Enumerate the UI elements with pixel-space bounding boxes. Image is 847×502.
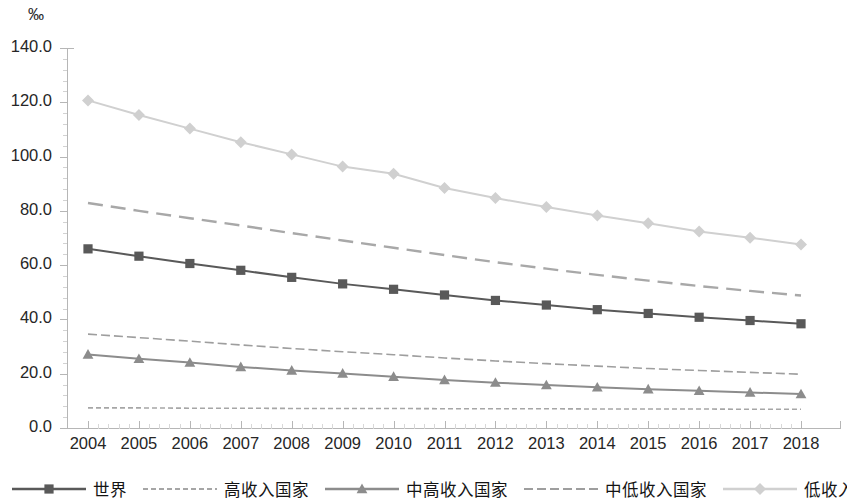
data-point-marker bbox=[542, 300, 551, 309]
data-point-marker bbox=[489, 192, 501, 204]
series-6 bbox=[88, 203, 801, 296]
data-point-marker bbox=[642, 217, 654, 229]
data-point-marker bbox=[593, 305, 602, 314]
legend-swatch-icon bbox=[723, 481, 797, 497]
legend-label: 中高收入国家 bbox=[406, 477, 508, 501]
data-point-marker bbox=[287, 273, 296, 282]
legend-label: 中低收入国家 bbox=[605, 477, 707, 501]
series-3 bbox=[83, 349, 807, 398]
data-point-marker bbox=[491, 296, 500, 305]
data-point-marker bbox=[286, 148, 298, 160]
series-1 bbox=[83, 244, 805, 328]
data-point-marker bbox=[591, 209, 603, 221]
data-point-marker bbox=[439, 182, 451, 194]
data-point-marker bbox=[795, 239, 807, 251]
legend-item-4[interactable]: 中低收入国家 bbox=[524, 477, 707, 501]
series-4 bbox=[88, 334, 801, 374]
legend-item-3[interactable]: 中高收入国家 bbox=[325, 477, 508, 501]
data-point-marker bbox=[185, 259, 194, 268]
data-point-marker bbox=[133, 109, 145, 121]
data-point-marker bbox=[388, 168, 400, 180]
data-point-marker bbox=[644, 309, 653, 318]
legend-label: 高收入国家 bbox=[224, 477, 309, 501]
series-line bbox=[88, 203, 801, 296]
legend-swatch-icon bbox=[524, 481, 598, 497]
chart-container: ‰ 140.0120.0100.080.060.040.020.00.0 200… bbox=[0, 0, 847, 502]
plot-series-layer bbox=[0, 0, 847, 502]
data-point-marker bbox=[236, 266, 245, 275]
data-point-marker bbox=[744, 232, 756, 244]
data-point-marker bbox=[337, 161, 349, 173]
chart-legend: 世界高收入国家中高收入国家中低收入国家低收入国家新兴市场30国 bbox=[0, 476, 847, 502]
data-point-marker bbox=[338, 279, 347, 288]
legend-swatch-icon bbox=[12, 481, 86, 497]
legend-item-2[interactable]: 高收入国家 bbox=[143, 477, 309, 501]
legend-swatch-icon bbox=[325, 481, 399, 497]
data-point-marker bbox=[389, 285, 398, 294]
series-line bbox=[88, 334, 801, 374]
legend-swatch-icon bbox=[143, 481, 217, 497]
data-point-marker bbox=[235, 136, 247, 148]
data-point-marker bbox=[83, 244, 92, 253]
legend-item-5[interactable]: 低收入国家 bbox=[723, 477, 847, 501]
series-line bbox=[88, 100, 801, 244]
data-point-marker bbox=[540, 201, 552, 213]
data-point-marker bbox=[796, 319, 805, 328]
series-2 bbox=[88, 408, 801, 409]
legend-label: 世界 bbox=[93, 477, 127, 501]
series-5 bbox=[82, 94, 807, 250]
data-point-marker bbox=[693, 225, 705, 237]
data-point-marker bbox=[440, 290, 449, 299]
data-point-marker bbox=[745, 316, 754, 325]
data-point-marker bbox=[184, 123, 196, 135]
legend-label: 低收入国家 bbox=[804, 477, 847, 501]
data-point-marker bbox=[695, 313, 704, 322]
data-point-marker bbox=[134, 252, 143, 261]
legend-item-1[interactable]: 世界 bbox=[12, 477, 127, 501]
series-line bbox=[88, 408, 801, 409]
series-line bbox=[88, 354, 801, 394]
data-point-marker bbox=[82, 94, 94, 106]
